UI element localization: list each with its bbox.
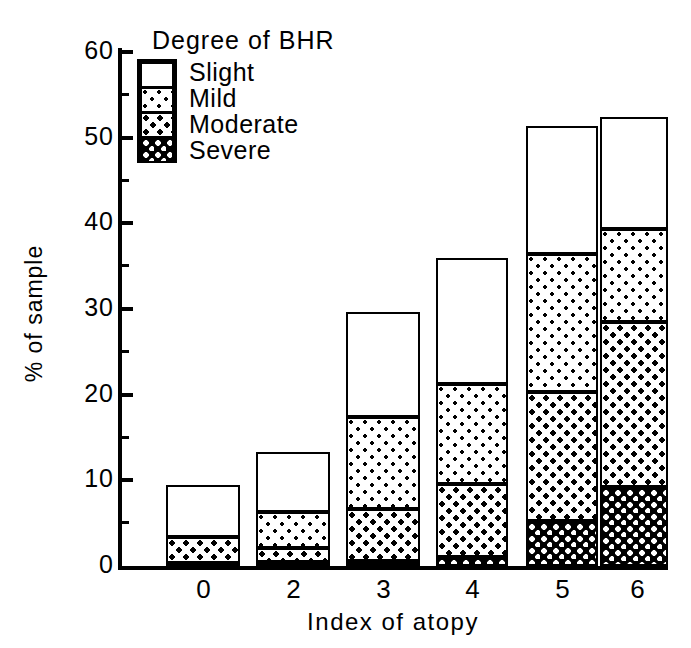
bar-segment-moderate-6	[600, 322, 668, 487]
bar-segment-severe-2	[256, 562, 330, 566]
y-tick-minor-55	[122, 93, 129, 96]
bar-segment-slight-2	[256, 452, 330, 512]
bar-segment-moderate-0	[166, 537, 240, 563]
x-tick-label-3: 3	[344, 574, 424, 605]
legend-label-severe: Severe	[189, 137, 271, 163]
bar-index-6	[600, 117, 668, 566]
y-tick-minor-35	[122, 264, 129, 267]
bar-index-5	[526, 126, 598, 566]
y-tick-minor-45	[122, 179, 129, 182]
y-tick-10	[122, 478, 133, 482]
bar-segment-severe-3	[346, 561, 420, 566]
x-tick-label-5: 5	[523, 574, 603, 605]
y-tick-minor-5	[122, 521, 129, 524]
legend-label-slight: Slight	[189, 59, 255, 85]
x-axis-title: Index of atopy	[118, 608, 668, 636]
legend-swatch-moderate	[140, 112, 174, 138]
x-tick-label-0: 0	[164, 574, 244, 605]
bar-segment-severe-0	[166, 562, 240, 566]
y-tick-20	[122, 393, 133, 397]
legend-swatch-stack	[137, 59, 177, 163]
y-tick-label-60: 60	[70, 38, 114, 63]
y-axis-title: % of sample	[21, 234, 48, 394]
bar-segment-mild-6	[600, 229, 668, 322]
bar-segment-slight-5	[526, 126, 598, 255]
x-tick-label-2: 2	[254, 574, 334, 605]
bar-index-0	[166, 485, 240, 566]
y-tick-label-30: 30	[70, 295, 114, 320]
y-tick-30	[122, 307, 133, 311]
y-tick-label-50: 50	[70, 124, 114, 149]
bar-segment-moderate-4	[436, 484, 508, 558]
x-tick-label-6: 6	[598, 574, 678, 605]
bar-segment-mild-5	[526, 254, 598, 392]
y-tick-minor-15	[122, 436, 129, 439]
y-tick-label-10: 10	[70, 466, 114, 491]
bar-index-4	[436, 258, 508, 566]
legend-swatch-severe	[140, 137, 174, 163]
bar-segment-severe-6	[600, 487, 668, 566]
y-tick-label-0: 0	[70, 552, 114, 577]
legend-title: Degree of BHR	[152, 26, 335, 55]
bar-segment-slight-0	[166, 485, 240, 537]
y-tick-40	[122, 221, 133, 225]
bar-index-2	[256, 452, 330, 566]
y-tick-minor-25	[122, 350, 129, 353]
legend-label-mild: Mild	[189, 85, 237, 111]
bar-segment-severe-5	[526, 521, 598, 566]
bar-segment-moderate-5	[526, 392, 598, 521]
y-tick-50	[122, 136, 133, 140]
bar-segment-slight-4	[436, 258, 508, 385]
bar-segment-slight-3	[346, 312, 420, 417]
bar-segment-mild-2	[256, 512, 330, 548]
y-tick-60	[122, 50, 133, 54]
stacked-bar-chart: 60 50 40 30 20 10 0 % of sample Degree o…	[0, 0, 691, 648]
legend-swatch-slight	[140, 62, 174, 88]
y-tick-label-20: 20	[70, 381, 114, 406]
bar-segment-mild-3	[346, 417, 420, 509]
bar-segment-moderate-2	[256, 548, 330, 562]
bar-index-3	[346, 312, 420, 566]
y-tick-label-40: 40	[70, 209, 114, 234]
bar-segment-moderate-3	[346, 509, 420, 561]
bar-segment-severe-4	[436, 557, 508, 566]
bar-segment-slight-6	[600, 117, 668, 229]
x-axis-line	[118, 566, 668, 570]
x-tick-label-4: 4	[433, 574, 513, 605]
legend-swatch-mild	[140, 87, 174, 113]
bar-segment-mild-4	[436, 384, 508, 483]
legend-label-moderate: Moderate	[189, 111, 299, 137]
